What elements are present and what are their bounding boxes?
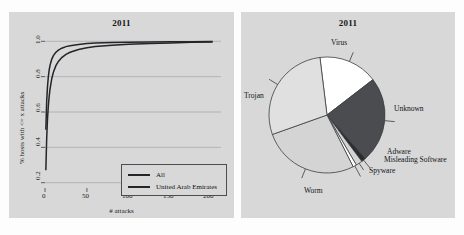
pie-chart-area xyxy=(241,12,455,218)
series-line-united-arab-emirates xyxy=(46,41,213,129)
legend-item-united-arab-emirates: United Arab Emirates xyxy=(128,181,217,193)
left-chart-panel: 2011 % hosts with <= x attacks 1.0 0.8 0… xyxy=(9,12,234,218)
legend-line-swatch xyxy=(128,186,150,188)
chart-legend: All United Arab Emirates xyxy=(121,164,227,196)
y-tick-label: 1.0 xyxy=(34,35,42,44)
legend-line-swatch xyxy=(128,174,150,176)
x-axis-label: # attacks xyxy=(9,207,234,215)
gridlines xyxy=(45,41,221,182)
leader-line-trojan xyxy=(269,79,278,84)
x-tick-label: 50 xyxy=(82,192,89,200)
leader-line-virus xyxy=(349,52,353,61)
pie-label-virus: Virus xyxy=(331,38,347,47)
leader-line-misleading-software xyxy=(359,163,363,170)
x-tick-label: 0 xyxy=(42,192,46,200)
leader-line-spyware xyxy=(355,166,361,177)
y-tick-label: 0.4 xyxy=(34,137,42,146)
pie-slices xyxy=(269,57,385,173)
y-tick-label: 0.2 xyxy=(34,171,42,180)
pie-label-misleading-software: Misleading Software xyxy=(384,155,447,164)
legend-label: United Arab Emirates xyxy=(156,183,217,191)
two-panel-figure: 2011 % hosts with <= x attacks 1.0 0.8 0… xyxy=(0,0,464,235)
legend-item-all: All xyxy=(128,169,165,181)
leader-line-worm xyxy=(302,169,306,178)
legend-label: All xyxy=(156,171,165,179)
pie-label-unknown: Unknown xyxy=(394,104,424,113)
series-line-all xyxy=(46,42,213,170)
y-tick-label: 0.6 xyxy=(34,103,42,112)
pie-label-spyware: Spyware xyxy=(369,166,395,175)
pie-label-trojan: Trojan xyxy=(244,91,264,100)
left-chart-title: 2011 xyxy=(9,18,234,28)
pie-label-worm: Worm xyxy=(304,186,323,195)
y-tick-label: 0.8 xyxy=(34,69,42,78)
right-chart-panel: 2011 Virus Unknown Adware Misleading Sof… xyxy=(241,12,455,218)
y-axis-label: % hosts with <= x attacks xyxy=(18,92,26,164)
leader-line-unknown xyxy=(385,121,395,122)
